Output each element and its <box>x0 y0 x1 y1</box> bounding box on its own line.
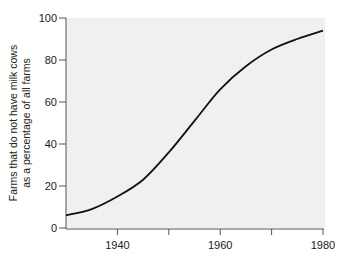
y-axis-title-line-1: Farms that do not have milk cows <box>7 45 19 201</box>
x-axis: 194019601980 <box>66 229 335 251</box>
x-tick-label: 1960 <box>208 239 232 251</box>
y-axis: 020406080100 <box>39 12 66 234</box>
y-tick-label: 0 <box>51 222 57 234</box>
y-tick-label: 80 <box>45 54 57 66</box>
y-tick-label: 60 <box>45 96 57 108</box>
plot-area <box>66 18 325 228</box>
x-tick-label: 1980 <box>311 239 335 251</box>
y-tick-label: 20 <box>45 180 57 192</box>
x-tick-label: 1940 <box>105 239 129 251</box>
y-tick-label: 100 <box>39 12 57 24</box>
y-axis-title-line-2: as a percentage of all farms <box>20 58 32 188</box>
line-chart: 020406080100 194019601980 Farms that do … <box>0 0 341 261</box>
y-tick-label: 40 <box>45 138 57 150</box>
